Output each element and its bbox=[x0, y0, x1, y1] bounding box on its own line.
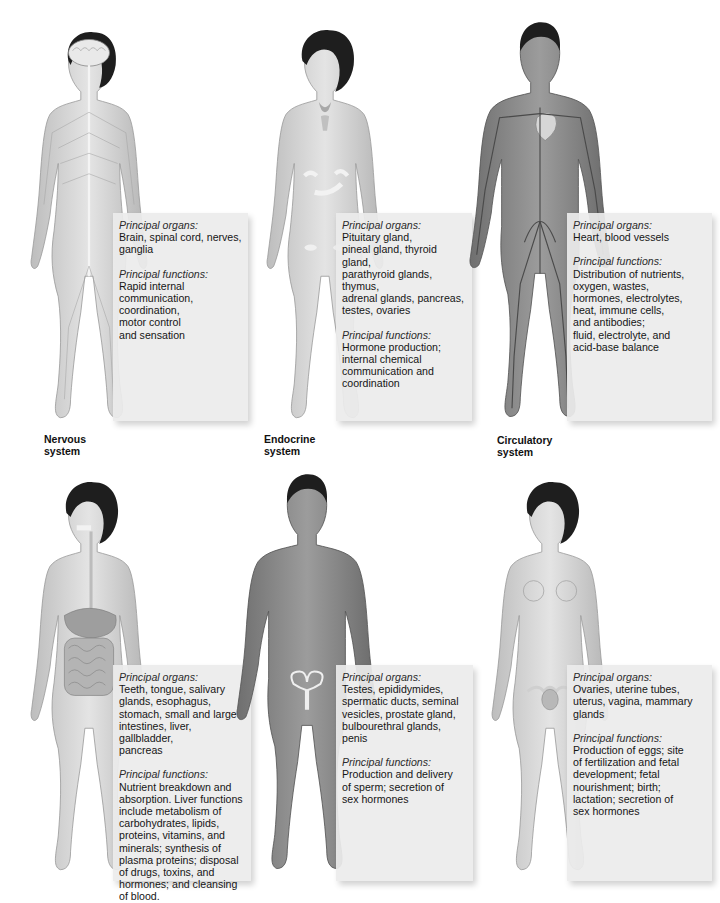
circulatory-organs-text: Heart, blood vessels bbox=[573, 231, 706, 243]
endocrine-functions-heading: Principal functions: bbox=[342, 329, 466, 341]
circulatory-organs-heading: Principal organs: bbox=[573, 219, 706, 231]
nervous-system-label: Nervous system bbox=[44, 433, 86, 457]
circulatory-system-label: Circulatory system bbox=[497, 434, 552, 458]
nervous-organs-heading: Principal organs: bbox=[119, 219, 242, 231]
female-reproductive-functions-text: Production of eggs; site of fertilizatio… bbox=[573, 744, 706, 817]
nervous-functions-heading: Principal functions: bbox=[119, 268, 242, 280]
male-reproductive-info-panel: Principal organs: Testes, epididymides, … bbox=[336, 665, 473, 881]
nervous-info-panel: Principal organs: Brain, spinal cord, ne… bbox=[113, 213, 248, 421]
endocrine-organs-heading: Principal organs: bbox=[342, 219, 466, 231]
circulatory-functions-heading: Principal functions: bbox=[573, 255, 706, 267]
female-reproductive-organs-text: Ovaries, uterine tubes, uterus, vagina, … bbox=[573, 683, 706, 720]
female-reproductive-info-panel: Principal organs: Ovaries, uterine tubes… bbox=[567, 665, 712, 881]
male-reproductive-organs-text: Testes, epididymides, spermatic ducts, s… bbox=[342, 683, 467, 744]
circulatory-functions-text: Distribution of nutrients, oxygen, waste… bbox=[573, 268, 706, 353]
male-reproductive-functions-text: Production and delivery of sperm; secret… bbox=[342, 768, 467, 805]
endocrine-organs-text: Pituitary gland, pineal gland, thyroid g… bbox=[342, 231, 466, 316]
circulatory-info-panel: Principal organs: Heart, blood vessels P… bbox=[567, 213, 712, 421]
nervous-functions-text: Rapid internal communication, coordinati… bbox=[119, 280, 242, 341]
female-reproductive-organs-heading: Principal organs: bbox=[573, 671, 706, 683]
endocrine-system-label: Endocrine system bbox=[264, 433, 315, 457]
endocrine-functions-text: Hormone production; internal chemical co… bbox=[342, 341, 466, 390]
female-reproductive-functions-heading: Principal functions: bbox=[573, 732, 706, 744]
endocrine-info-panel: Principal organs: Pituitary gland, pinea… bbox=[336, 213, 472, 421]
male-reproductive-organs-heading: Principal organs: bbox=[342, 671, 467, 683]
male-reproductive-functions-heading: Principal functions: bbox=[342, 756, 467, 768]
nervous-organs-text: Brain, spinal cord, nerves, ganglia bbox=[119, 231, 242, 255]
